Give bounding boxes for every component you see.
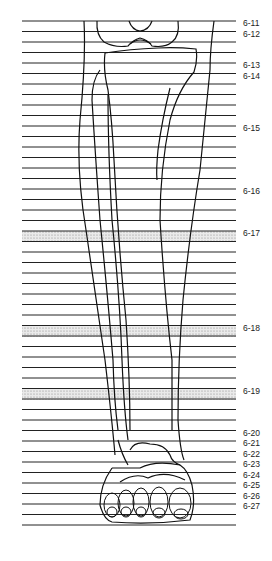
shaded-band-6-18 bbox=[22, 326, 236, 337]
femur-outline bbox=[97, 21, 179, 47]
section-label: 6-21 bbox=[243, 439, 260, 448]
section-label: 6-25 bbox=[243, 481, 260, 490]
section-label: 6-23 bbox=[243, 460, 260, 469]
section-label: 6-12 bbox=[243, 30, 260, 39]
section-label: 6-14 bbox=[243, 72, 260, 81]
section-label: 6-22 bbox=[243, 450, 260, 459]
leg-section-diagram bbox=[0, 0, 272, 561]
section-label: 6-18 bbox=[243, 324, 260, 333]
section-label: 6-20 bbox=[243, 429, 260, 438]
section-label: 6-26 bbox=[243, 492, 260, 501]
section-label: 6-17 bbox=[243, 229, 260, 238]
leg-outline bbox=[79, 21, 214, 523]
section-label: 6-13 bbox=[243, 61, 260, 70]
section-label: 6-27 bbox=[243, 502, 260, 511]
section-lines bbox=[22, 21, 236, 525]
section-label: 6-24 bbox=[243, 471, 260, 480]
section-label: 6-11 bbox=[243, 19, 259, 28]
patella-outline bbox=[129, 21, 152, 31]
section-label: 6-19 bbox=[243, 387, 260, 396]
shaded-band-6-17 bbox=[22, 231, 236, 242]
fibula-outline bbox=[92, 70, 118, 430]
section-label: 6-16 bbox=[243, 187, 260, 196]
section-label: 6-15 bbox=[243, 124, 260, 133]
